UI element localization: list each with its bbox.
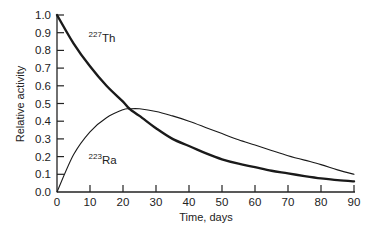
y-tick-label: 0.9 (35, 27, 51, 39)
y-tick-label: 0.1 (35, 168, 51, 180)
series-label-ra: 223Ra (89, 152, 118, 166)
x-tick-label: 80 (315, 196, 328, 208)
x-tick-label: 20 (117, 196, 130, 208)
y-axis-title: Relative activity (14, 65, 26, 142)
x-tick-label: 30 (150, 196, 163, 208)
x-tick-label: 90 (348, 196, 361, 208)
x-axis-title: Time, days (179, 211, 233, 223)
y-tick-label: 0.6 (35, 80, 51, 92)
x-tick-label: 70 (282, 196, 295, 208)
series-line-ra (57, 109, 354, 192)
svg-text:Relative activity: Relative activity (14, 65, 26, 142)
decay-chart: Relative activity 0.00.10.20.30.40.50.60… (0, 0, 375, 232)
y-tick-label: 1.0 (35, 9, 51, 21)
y-tick-label: 0.8 (35, 44, 51, 56)
x-tick-label: 50 (216, 196, 229, 208)
series-labels: 227Th223Ra (89, 30, 118, 166)
y-tick-label: 0.2 (35, 151, 51, 163)
y-tick-label: 0.7 (35, 62, 51, 74)
x-tick-label: 60 (249, 196, 262, 208)
y-axis-ticks: 0.00.10.20.30.40.50.60.70.80.91.0 (35, 9, 64, 198)
y-tick-label: 0.5 (35, 98, 51, 110)
x-tick-label: 10 (84, 196, 97, 208)
y-tick-label: 0.0 (35, 186, 51, 198)
x-tick-label: 40 (183, 196, 196, 208)
x-tick-label: 0 (54, 196, 60, 208)
x-axis-ticks: 0102030405060708090 (54, 185, 361, 208)
series-label-th: 227Th (89, 30, 116, 44)
y-tick-label: 0.3 (35, 133, 51, 145)
y-tick-label: 0.4 (35, 115, 52, 127)
